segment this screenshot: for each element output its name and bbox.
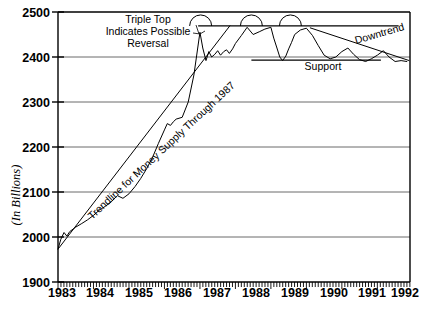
y-tick-label-2400: 2400 (22, 51, 50, 65)
y-tick-label-2300: 2300 (22, 96, 50, 110)
x-tick-label-1990: 1990 (320, 286, 348, 300)
x-tick-label-1988: 1988 (242, 286, 270, 300)
x-tick-label-1989: 1989 (281, 286, 309, 300)
x-tick-label-1983: 1983 (48, 286, 76, 300)
x-tick-label-1986: 1986 (164, 286, 192, 300)
support-annotation: Support (305, 60, 342, 72)
y-tick-label-1900: 1900 (22, 276, 50, 290)
y-tick-label-2500: 2500 (22, 6, 50, 20)
y-axis-title: (In Billions) (9, 165, 23, 226)
triple-top-note-line2: Indicates Possible (106, 25, 191, 37)
x-tick-label-1984: 1984 (86, 286, 114, 300)
x-tick-label-1987: 1987 (203, 286, 231, 300)
x-tick-label-1991: 1991 (358, 286, 386, 300)
chart-screenshot: 2500 2400 2300 2200 2100 2000 1900 (In B… (0, 0, 424, 318)
x-tick-label-1992: 1992 (391, 286, 419, 300)
y-tick-label-2200: 2200 (22, 141, 50, 155)
y-tick-label-2100: 2100 (22, 186, 50, 200)
y-tick-label-2000: 2000 (22, 231, 50, 245)
x-tick-label-1985: 1985 (125, 286, 153, 300)
triple-top-note-line1: Triple Top (125, 13, 171, 25)
money-supply-chart: 2500 2400 2300 2200 2100 2000 1900 (In B… (0, 0, 424, 318)
triple-top-note-line3: Reversal (127, 37, 168, 49)
